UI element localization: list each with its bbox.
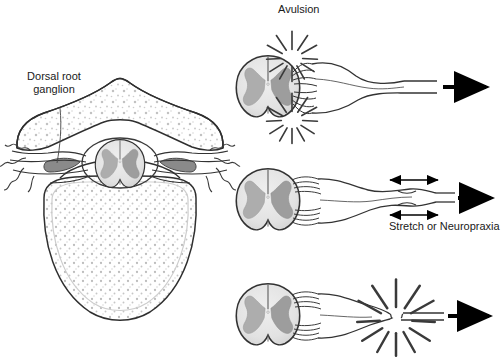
- illustration-canvas: [0, 0, 504, 363]
- stretch-spinal-cord: [236, 169, 299, 230]
- vertebral-body: [44, 176, 196, 321]
- medical-illustration-figure: Dorsal root ganglion Avulsion Stretch or…: [0, 0, 504, 363]
- peripheral-branches-right: [206, 144, 240, 192]
- stretch-narrowing-upper: [398, 191, 416, 193]
- avulsion-nerve-lower-border: [312, 93, 404, 113]
- stretch-narrowing-lower: [398, 203, 416, 205]
- label-stretch-or-neuropraxia: Stretch or Neuropraxia: [389, 220, 500, 233]
- rupture-burst: [357, 280, 435, 356]
- avulsion-nerve-fascicle-line: [316, 79, 404, 89]
- rupture-proximal-torn-end: [390, 314, 392, 319]
- stretch-nerve-upper-border: [318, 179, 436, 193]
- rupture-proximal-fascicle-line: [320, 315, 372, 317]
- stretch-nerve-fascicle-line: [320, 197, 412, 202]
- peripheral-branches-left: [0, 144, 34, 192]
- panel-rupture: [236, 280, 489, 356]
- panel-avulsion: [236, 31, 486, 143]
- panel-vertebra-cross-section: [0, 79, 240, 321]
- spinal-cord-cross-section: [95, 140, 144, 188]
- rupture-distal-torn-end: [401, 314, 403, 318]
- label-dorsal-root-ganglion: Dorsal root ganglion: [6, 70, 102, 96]
- label-avulsion: Avulsion: [278, 3, 319, 16]
- rupture-spinal-cord: [236, 284, 299, 345]
